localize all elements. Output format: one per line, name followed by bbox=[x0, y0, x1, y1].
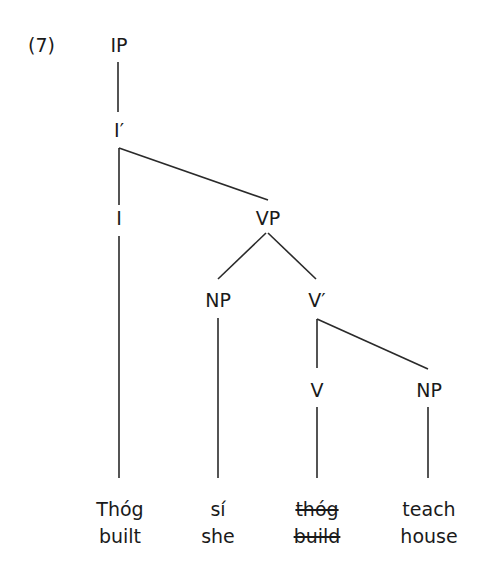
branch-vp-np bbox=[218, 233, 266, 279]
node-np-object: NP bbox=[416, 379, 442, 401]
leaf-word-4: teach bbox=[402, 496, 455, 523]
leaf-gloss-1: built bbox=[99, 523, 141, 550]
node-v-bar: V′ bbox=[308, 289, 325, 311]
branch-vp-vbar bbox=[268, 233, 316, 279]
node-i-bar: I′ bbox=[114, 119, 124, 141]
branch-ibar-vp bbox=[119, 148, 268, 200]
node-np-subject: NP bbox=[205, 289, 231, 311]
node-i: I bbox=[116, 207, 122, 229]
leaf-gloss-2: she bbox=[201, 523, 235, 550]
branch-vbar-np bbox=[317, 319, 428, 369]
leaf-word-1: Thóg bbox=[96, 496, 143, 523]
tree-branches bbox=[0, 0, 491, 582]
example-number: (7) bbox=[28, 34, 55, 56]
leaf-word-2: sí bbox=[210, 496, 225, 523]
leaf-word-3-struck: thóg bbox=[295, 496, 338, 523]
node-vp: VP bbox=[256, 207, 280, 229]
leaf-gloss-4: house bbox=[400, 523, 457, 550]
node-ip: IP bbox=[110, 34, 127, 56]
leaf-gloss-3-struck: build bbox=[294, 523, 341, 550]
node-v: V bbox=[311, 379, 324, 401]
